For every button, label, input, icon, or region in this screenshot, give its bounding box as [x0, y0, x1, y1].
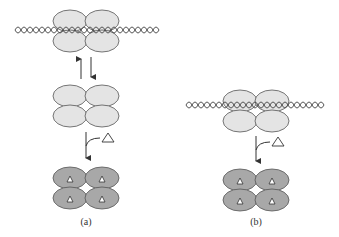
- inducer-bound-tetramer-a: [53, 167, 119, 209]
- panel-label-a: (a): [80, 216, 91, 227]
- inducer-bound-tetramer-b: [223, 169, 289, 211]
- free-tetramer-a: [53, 85, 119, 127]
- panel-a: [15, 10, 159, 209]
- panel-label-b: (b): [250, 216, 262, 227]
- inducer-triangle-icon: [272, 137, 284, 146]
- diagram-canvas: [0, 0, 339, 237]
- dna-bound-tetramer-a: [15, 10, 159, 52]
- panel-b: [186, 90, 324, 211]
- dna-bound-tetramer-b: [186, 90, 324, 132]
- inducer-triangle-icon: [102, 133, 114, 142]
